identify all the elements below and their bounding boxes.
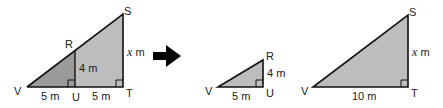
label-RU: 4 m bbox=[79, 62, 97, 74]
vertex-R: R bbox=[65, 38, 73, 50]
vertex-S: S bbox=[409, 6, 416, 18]
figure-large-triangle: V S T 10 m x m bbox=[301, 6, 430, 102]
similar-triangles-diagram: V R S U T 5 m 5 m 4 m x m V R U 5 m 4 m … bbox=[0, 0, 443, 108]
label-VU: 5 m bbox=[232, 90, 250, 102]
vertex-V: V bbox=[14, 85, 22, 97]
vertex-T: T bbox=[411, 87, 418, 99]
label-RU: 4 m bbox=[267, 67, 285, 79]
vertex-V: V bbox=[301, 85, 309, 97]
label-VT: 10 m bbox=[352, 90, 376, 102]
vertex-R: R bbox=[266, 50, 274, 62]
arrow-right-icon bbox=[153, 45, 181, 67]
vertex-S: S bbox=[124, 5, 131, 17]
figure-small-triangle: V R U 5 m 4 m bbox=[205, 50, 285, 102]
vertex-U: U bbox=[266, 87, 274, 99]
vertex-U: U bbox=[72, 91, 80, 103]
vertex-T: T bbox=[126, 87, 133, 99]
vertex-V: V bbox=[205, 85, 213, 97]
label-ST: x m bbox=[411, 45, 430, 59]
figure-combined-triangles: V R S U T 5 m 5 m 4 m x m bbox=[14, 5, 145, 103]
label-VU: 5 m bbox=[41, 90, 59, 102]
label-UT: 5 m bbox=[92, 90, 110, 102]
triangle-VTS bbox=[313, 15, 408, 87]
label-ST: x m bbox=[126, 45, 145, 59]
